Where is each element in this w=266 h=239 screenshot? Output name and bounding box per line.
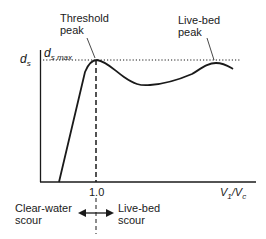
x-axis-label: V1/Vc [220,186,246,203]
threshold-peak-label: Thresholdpeak [60,12,109,36]
y-axis-label: ds [20,53,31,70]
arrow-right-icon [106,209,114,217]
arrow-left-icon [78,209,86,217]
threshold-peak-leader [87,38,95,58]
live-bed-scour-label: Live-bedscour [118,202,160,226]
ds-max-label: ds max [44,47,72,64]
live-bed-peak-leader [207,38,214,60]
live-bed-peak-label: Live-bedpeak [178,14,220,38]
x-tick-label: 1.0 [89,186,104,198]
scour-depth-curve [59,60,233,182]
clear-water-scour-label: Clear-waterscour [15,202,72,226]
